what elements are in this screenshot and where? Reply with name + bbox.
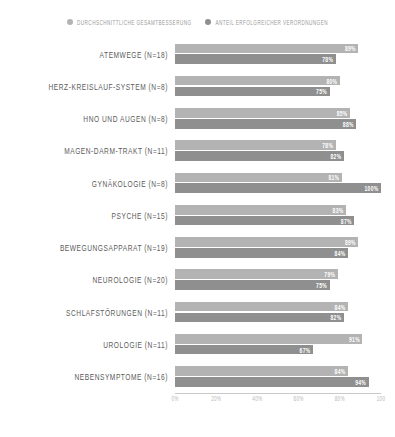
legend-label: DURCHSCHNITTLICHE GESAMTBESSERUNG [77,18,191,25]
chart-row: BEWEGUNGSAPPARAT (N=19)89%84% [0,232,395,264]
bar-value-label: 75% [316,87,329,95]
bar-gesamtbesserung: 91% [175,334,362,344]
category-label: HERZ-KREISLAUF-SYSTEM (N=8) [0,81,175,92]
bar-value-label: 81% [328,173,341,181]
bar-verordnungen: 100% [175,183,381,193]
bar-value-label: 85% [337,109,350,117]
category-label: ATEMWEGE (N=18) [0,49,175,60]
category-label: SCHLAFSTÖRUNGEN (N=11) [0,307,175,318]
bar-verordnungen: 78% [175,54,336,64]
bar-value-label: 88% [343,120,356,128]
bar-value-label: 67% [300,345,313,353]
category-label: NEUROLOGIE (N=20) [0,275,175,286]
bar-verordnungen: 67% [175,345,313,355]
chart-row: ATEMWEGE (N=18)89%78% [0,38,395,70]
bar-group: 80%75% [175,70,381,102]
bar-group: 91%67% [175,328,381,360]
category-label: MAGEN-DARM-TRAKT (N=11) [0,146,175,157]
chart-row: HNO UND AUGEN (N=8)85%88% [0,103,395,135]
legend-item-verordnungen: ANTEIL ERFOLGREICHER VERORDNUNGEN [205,19,327,25]
category-label: HNO UND AUGEN (N=8) [0,113,175,124]
chart-row: PSYCHE (N=15)83%87% [0,199,395,231]
axis-tick-label: 0% [171,395,178,402]
chart-row: SCHLAFSTÖRUNGEN (N=11)84%82% [0,296,395,328]
bar-gesamtbesserung: 79% [175,269,338,279]
bar-value-label: 82% [330,313,343,321]
category-label: NEBENSYMPTOME (N=16) [0,372,175,383]
bar-verordnungen: 82% [175,151,344,161]
chart-row: UROLOGIE (N=11)91%67% [0,328,395,360]
category-label: BEWEGUNGSAPPARAT (N=19) [0,242,175,253]
bar-gesamtbesserung: 83% [175,205,346,215]
bar-group: 78%82% [175,135,381,167]
chart-row: GYNÄKOLOGIE (N=8)81%100% [0,167,395,199]
bar-gesamtbesserung: 81% [175,173,342,183]
bar-value-label: 84% [335,367,348,375]
chart-row: NEBENSYMPTOME (N=16)84%94% [0,361,395,393]
bar-group: 85%88% [175,103,381,135]
circle-icon [67,19,73,25]
bar-gesamtbesserung: 78% [175,140,336,150]
legend-label: ANTEIL ERFOLGREICHER VERORDNUNGEN [215,18,327,25]
bar-verordnungen: 94% [175,377,369,387]
axis-tick-label: 80% [335,395,345,402]
bar-group: 89%78% [175,38,381,70]
bar-value-label: 78% [322,141,335,149]
bar-group: 81%100% [175,167,381,199]
axis-tick-label: 100 [377,395,386,402]
bar-value-label: 89% [345,44,358,52]
bar-value-label: 89% [345,238,358,246]
chart-row: HERZ-KREISLAUF-SYSTEM (N=8)80%75% [0,70,395,102]
bar-value-label: 80% [326,76,339,84]
axis-tick-label: 60% [294,395,304,402]
bar-value-label: 91% [349,335,362,343]
bar-verordnungen: 87% [175,216,354,226]
chart-legend: DURCHSCHNITTLICHE GESAMTBESSERUNG ANTEIL… [0,19,395,25]
bar-gesamtbesserung: 89% [175,237,358,247]
axis-tick-label: 40% [252,395,262,402]
bar-value-label: 82% [330,152,343,160]
bar-value-label: 84% [335,249,348,257]
category-label: PSYCHE (N=15) [0,210,175,221]
category-label: UROLOGIE (N=11) [0,339,175,350]
chart-row: NEUROLOGIE (N=20)79%75% [0,264,395,296]
bar-verordnungen: 82% [175,313,344,323]
bar-value-label: 75% [316,281,329,289]
plot-area: ATEMWEGE (N=18)89%78%HERZ-KREISLAUF-SYST… [0,38,395,393]
bar-value-label: 100% [365,184,382,192]
category-label: GYNÄKOLOGIE (N=8) [0,178,175,189]
bar-verordnungen: 75% [175,87,330,97]
bar-gesamtbesserung: 80% [175,76,340,86]
bar-verordnungen: 75% [175,280,330,290]
bar-group: 83%87% [175,199,381,231]
bar-verordnungen: 84% [175,248,348,258]
legend-item-gesamtbesserung: DURCHSCHNITTLICHE GESAMTBESSERUNG [67,19,191,25]
bar-gesamtbesserung: 84% [175,366,348,376]
bar-group: 84%94% [175,361,381,393]
bar-group: 84%82% [175,296,381,328]
bar-gesamtbesserung: 89% [175,44,358,54]
bar-gesamtbesserung: 84% [175,302,348,312]
bar-chart: DURCHSCHNITTLICHE GESAMTBESSERUNG ANTEIL… [0,0,395,437]
bar-value-label: 84% [335,302,348,310]
bar-value-label: 78% [322,55,335,63]
circle-icon [205,19,211,25]
bar-group: 79%75% [175,264,381,296]
bar-gesamtbesserung: 85% [175,108,350,118]
bar-verordnungen: 88% [175,119,356,129]
x-axis-line [175,393,381,394]
bar-value-label: 87% [341,216,354,224]
bar-value-label: 83% [333,206,346,214]
chart-row: MAGEN-DARM-TRAKT (N=11)78%82% [0,135,395,167]
bar-value-label: 94% [355,378,368,386]
x-axis-ticks: 0%20%40%60%80%100 [175,396,381,410]
bar-group: 89%84% [175,232,381,264]
bar-value-label: 79% [324,270,337,278]
axis-tick-label: 20% [211,395,221,402]
